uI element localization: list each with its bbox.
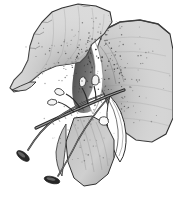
illustration-canvas: Botanical engraving of a flower flower p… [0, 0, 173, 201]
flower-engraving [0, 0, 173, 201]
stigma [99, 117, 109, 125]
anther-pale-a [47, 99, 57, 105]
anther-pale-d [92, 75, 99, 85]
